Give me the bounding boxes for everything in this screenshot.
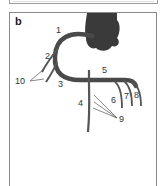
- label-6: 6: [111, 96, 116, 105]
- label-9: 9: [119, 115, 124, 124]
- vessel-4: [88, 70, 89, 132]
- label-1: 1: [56, 26, 61, 35]
- label-2: 2: [45, 52, 50, 61]
- label-8: 8: [134, 91, 139, 100]
- label-10: 10: [15, 77, 25, 86]
- vessel-2b: [46, 62, 57, 82]
- label-4: 4: [78, 99, 83, 108]
- label-5: 5: [102, 66, 107, 75]
- vessel-6: [115, 82, 122, 108]
- heart-shape: [85, 13, 119, 51]
- label-7: 7: [124, 92, 129, 101]
- leader-10: [30, 69, 44, 81]
- label-3: 3: [58, 80, 63, 89]
